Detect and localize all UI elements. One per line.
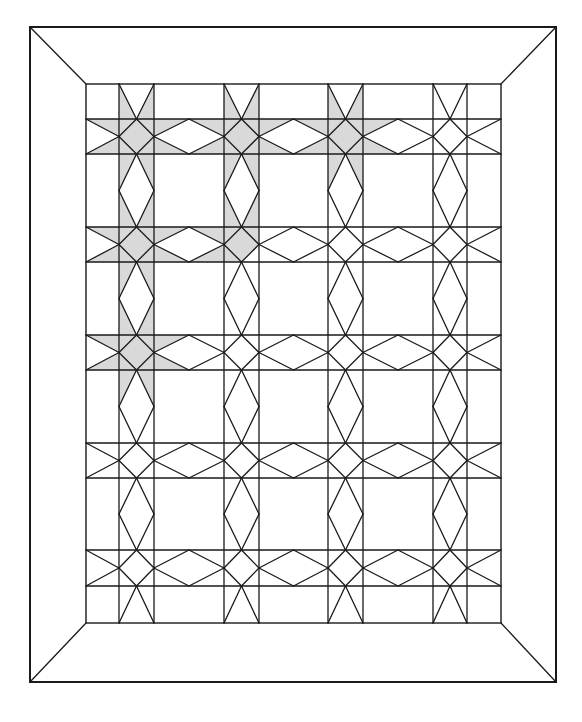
pattern-line [433, 586, 450, 623]
pattern-line [328, 299, 346, 336]
pattern-line [242, 370, 260, 407]
pattern-line [328, 407, 346, 444]
pattern-line [189, 353, 224, 371]
pattern-line [242, 478, 260, 514]
pattern-line [294, 227, 329, 245]
pattern-line [467, 335, 501, 353]
pattern-line [346, 191, 364, 228]
pattern-line [328, 353, 346, 371]
pattern-line [224, 353, 242, 371]
pattern-line [433, 245, 450, 263]
pattern-line [189, 461, 224, 479]
pattern-line [467, 461, 501, 479]
pattern-line [433, 299, 450, 336]
pattern-line [398, 137, 433, 155]
pattern-line [137, 550, 155, 568]
pattern-line [433, 443, 450, 461]
pattern-line [259, 461, 294, 479]
pattern-line [346, 478, 364, 514]
pattern-line [224, 478, 242, 514]
pattern-line [224, 586, 242, 623]
pattern-line [346, 461, 364, 479]
pattern-line [242, 353, 260, 371]
pattern-line [328, 227, 346, 245]
pattern-line [433, 514, 450, 550]
pattern-line [346, 299, 364, 336]
pattern-line [259, 335, 294, 353]
pattern-line [450, 245, 467, 263]
pattern-line [119, 514, 137, 550]
pattern-line [450, 299, 467, 336]
pattern-line [189, 335, 224, 353]
pattern-line [328, 514, 346, 550]
pattern-line [363, 353, 398, 371]
pattern-line [224, 550, 242, 568]
pattern-line [467, 227, 501, 245]
pattern-line [154, 461, 189, 479]
pattern-line [450, 586, 467, 623]
pattern-line [346, 353, 364, 371]
pattern-line [363, 443, 398, 461]
pattern-line [328, 568, 346, 586]
pattern-line [294, 335, 329, 353]
pattern-line [137, 568, 155, 586]
pattern-line [224, 370, 242, 407]
pattern-line [433, 407, 450, 444]
pattern-line [224, 262, 242, 299]
pattern-line [467, 353, 501, 371]
pattern-line [450, 262, 467, 299]
quilt-diagram [0, 0, 582, 722]
pattern-line [450, 370, 467, 407]
pattern-line [363, 245, 398, 263]
pattern-line [450, 227, 467, 245]
pattern-line [86, 461, 119, 479]
pattern-line [242, 514, 260, 550]
pattern-line [433, 353, 450, 371]
pattern-line [294, 245, 329, 263]
pattern-line [242, 407, 260, 444]
pattern-line [346, 514, 364, 550]
pattern-line [259, 245, 294, 263]
pattern-line [450, 568, 467, 586]
pattern-line [346, 407, 364, 444]
pattern-line [224, 407, 242, 444]
pattern-line [501, 623, 556, 682]
pattern-line [433, 191, 450, 228]
pattern-line [328, 245, 346, 263]
pattern-line [154, 568, 189, 586]
pattern-line [346, 586, 364, 623]
pattern-line [242, 299, 260, 336]
pattern-line [346, 335, 364, 353]
pattern-line [398, 353, 433, 371]
pattern-line [189, 443, 224, 461]
pattern-line [154, 443, 189, 461]
pattern-line [242, 586, 260, 623]
pattern-line [224, 335, 242, 353]
pattern-line [398, 119, 433, 137]
pattern-line [450, 407, 467, 444]
pattern-line [242, 550, 260, 568]
pattern-line [450, 191, 467, 228]
pattern-line [119, 586, 137, 623]
pattern-line [450, 443, 467, 461]
pattern-line [189, 550, 224, 568]
pattern-line [398, 461, 433, 479]
pattern-line [433, 262, 450, 299]
pattern-line [259, 353, 294, 371]
pattern-line [467, 550, 501, 568]
pattern-line [259, 227, 294, 245]
shaded-patches [86, 84, 398, 407]
pattern-line [259, 550, 294, 568]
pattern-line [242, 568, 260, 586]
pattern-line [328, 586, 346, 623]
pattern-line [467, 443, 501, 461]
pattern-line [450, 119, 467, 137]
pattern-line [433, 84, 450, 119]
pattern-line [328, 461, 346, 479]
pattern-line [433, 568, 450, 586]
pattern-line [328, 550, 346, 568]
pattern-line [224, 514, 242, 550]
pattern-line [363, 568, 398, 586]
pattern-line [346, 227, 364, 245]
pattern-line [224, 461, 242, 479]
